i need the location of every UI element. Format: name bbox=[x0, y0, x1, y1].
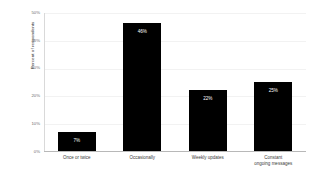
bar-value-label: 22% bbox=[189, 97, 227, 102]
x-axis-tick-label: Occasionally bbox=[110, 155, 176, 161]
bar-group[interactable]: 25% bbox=[254, 82, 292, 152]
y-axis-tick-label: 30% bbox=[16, 66, 40, 70]
bar[interactable]: 22% bbox=[189, 90, 227, 151]
x-axis-tick-label-line: Once or twice bbox=[44, 155, 110, 161]
x-axis-tick-label-line: ongoing messages bbox=[241, 161, 307, 167]
y-axis-tick-label: 10% bbox=[16, 122, 40, 126]
bar[interactable]: 7% bbox=[58, 132, 96, 151]
x-axis-tick-label-line: Occasionally bbox=[110, 155, 176, 161]
x-axis-tick-label-line: Weekly updates bbox=[175, 155, 241, 161]
bar-group[interactable]: 7% bbox=[58, 132, 96, 151]
bar-value-label: 46% bbox=[123, 30, 161, 35]
x-axis-tick-labels: Once or twiceOccasionallyWeekly updatesC… bbox=[44, 155, 306, 183]
bar-chart: Percent of respondents 0%10%20%30%40%50%… bbox=[0, 0, 318, 185]
bar-group[interactable]: 46% bbox=[123, 23, 161, 151]
bar-value-label: 7% bbox=[58, 139, 96, 144]
bar-series: 7%46%22%25% bbox=[44, 13, 306, 152]
y-axis-tick-label: 50% bbox=[16, 11, 40, 15]
x-axis-tick-label: Once or twice bbox=[44, 155, 110, 161]
y-axis-tick-label: 20% bbox=[16, 94, 40, 98]
bar-group[interactable]: 22% bbox=[189, 90, 227, 151]
x-axis-tick-label: Weekly updates bbox=[175, 155, 241, 161]
x-axis-tick-label: Constantongoing messages bbox=[241, 155, 307, 166]
plot-area: 7%46%22%25% bbox=[44, 13, 306, 152]
bar[interactable]: 46% bbox=[123, 23, 161, 151]
bar-value-label: 25% bbox=[254, 89, 292, 94]
y-axis-tick-label: 40% bbox=[16, 39, 40, 43]
y-axis-tick-label: 0% bbox=[16, 150, 40, 154]
bar[interactable]: 25% bbox=[254, 82, 292, 152]
y-axis-tick-labels: 0%10%20%30%40%50% bbox=[12, 0, 40, 185]
